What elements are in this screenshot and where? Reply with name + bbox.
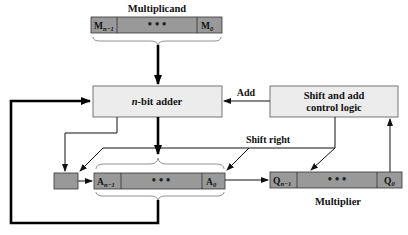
a-register-top-brace xyxy=(96,158,224,169)
shift-right-label: Shift right xyxy=(246,134,291,145)
add-signal-label: Add xyxy=(237,87,256,98)
a-register-bottom-brace xyxy=(96,192,224,200)
shift-right-line xyxy=(103,117,335,148)
multiplicand-label: Multiplicand xyxy=(128,3,187,14)
shift-right-to-a-arrow xyxy=(227,148,249,170)
control-logic-label-line1: Shift and add xyxy=(304,90,365,101)
accumulator-register: An−1 • • • A0 xyxy=(94,173,225,189)
multiplicand-brace xyxy=(93,37,221,45)
adder-box: n-bit adder xyxy=(93,86,222,117)
adder-label: n-bit adder xyxy=(132,96,183,107)
shift-right-to-c-arrow xyxy=(80,148,103,171)
multiplicand-register: Mn−1 • • • M0 xyxy=(91,17,222,33)
multiplier-hardware-diagram: Multiplicand Mn−1 • • • M0 n-bit adder S… xyxy=(0,0,408,235)
multiplier-label: Multiplier xyxy=(315,196,361,207)
q-ellipsis: • • • xyxy=(328,172,347,186)
a-ellipsis: • • • xyxy=(152,173,171,187)
m-ellipsis: • • • xyxy=(148,17,167,31)
shift-right-to-q-arrow xyxy=(311,148,335,170)
carry-out-arrow xyxy=(65,117,117,171)
carry-register xyxy=(54,173,78,189)
control-logic-label-line2: control logic xyxy=(306,102,362,113)
control-logic-box: Shift and add control logic xyxy=(270,86,398,117)
multiplier-register: Qn−1 • • • Q0 xyxy=(270,172,402,188)
a-feedback-to-adder-arrow xyxy=(11,101,158,223)
